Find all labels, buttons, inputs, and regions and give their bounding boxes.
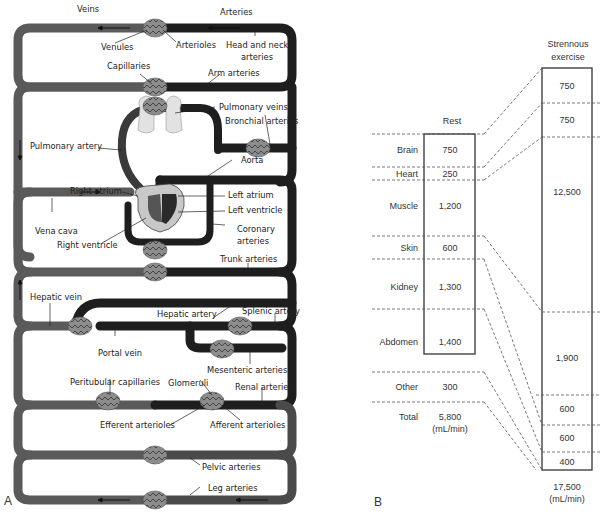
label-left-atrium: Left atrium	[228, 190, 274, 200]
circulation-figure: Veins Arteries Venules Arterioles Head a…	[0, 0, 600, 516]
exercise-value-heart: 750	[559, 115, 574, 125]
panel-b-letter: B	[374, 495, 382, 509]
label-venules: Venules	[101, 42, 133, 52]
veins-header: Veins	[77, 4, 99, 14]
exercise-value-muscle: 12,500	[553, 187, 581, 197]
label-aorta: Aorta	[241, 155, 263, 165]
rest-value-kidney: 1,300	[439, 282, 462, 292]
label-portal-vein: Portal vein	[98, 348, 142, 358]
exercise-column-title: Strennous	[547, 39, 589, 49]
rest-value-skin: 600	[442, 243, 457, 253]
category-muscle: Muscle	[389, 201, 418, 211]
label-vena-cava: Vena cava	[35, 226, 78, 236]
category-skin: Skin	[400, 243, 418, 253]
label-afferent-arterioles: Afferent arterioles	[210, 420, 285, 430]
exercise-value-skin: 1,900	[556, 353, 579, 363]
category-heart: Heart	[396, 169, 419, 179]
label-mesenteric-arteries: Mesenteric arteries	[207, 365, 287, 375]
exercise-unit: (mL/min)	[549, 494, 585, 504]
blood-flow-distribution-chart: Rest Strennous exercise	[372, 39, 600, 509]
capillary-beds	[68, 19, 270, 509]
label-peritubular-capillaries: Peritubular capillaries	[70, 377, 160, 387]
label-pulmonary-artery: Pulmonary artery	[30, 141, 102, 151]
panel-a-letter: A	[4, 494, 12, 508]
label-efferent-arterioles: Efferent arterioles	[100, 420, 175, 430]
label-left-ventricle: Left ventricle	[228, 205, 282, 215]
rest-total: 5,800	[439, 412, 462, 422]
arteries-header: Arteries	[220, 7, 253, 17]
exercise-value-abdomen: 600	[559, 433, 574, 443]
rest-value-muscle: 1,200	[439, 201, 462, 211]
category-kidney: Kidney	[390, 282, 418, 292]
exercise-value-other: 400	[559, 457, 574, 467]
label-arterioles: Arterioles	[176, 40, 216, 50]
label-hepatic-artery: Hepatic artery	[157, 309, 217, 319]
label-capillaries: Capillaries	[107, 61, 150, 71]
label-hepatic-vein: Hepatic vein	[30, 292, 82, 302]
label-coronary-arteries-2: arteries	[237, 236, 269, 246]
total-label: Total	[399, 412, 418, 422]
exercise-value-brain: 750	[559, 81, 574, 91]
label-trunk-arteries: Trunk arteries	[219, 254, 277, 264]
label-pelvic-arteries: Pelvic arteries	[202, 462, 261, 472]
label-right-atrium: Right atrium	[70, 186, 122, 196]
label-head-neck-arteries-2: arteries	[241, 52, 273, 62]
exercise-column-title-2: exercise	[551, 52, 585, 62]
label-bronchial-arteries: Bronchial arteries	[225, 116, 298, 126]
category-other: Other	[395, 382, 418, 392]
exercise-value-kidney: 600	[559, 404, 574, 414]
heart-shape	[135, 184, 184, 232]
label-right-ventricle: Right ventricle	[57, 240, 118, 250]
category-abdomen: Abdomen	[379, 337, 418, 347]
label-arm-arteries: Arm arteries	[208, 68, 260, 78]
label-splenic-artery: Splenic artery	[242, 306, 300, 316]
label-head-neck-arteries: Head and neck	[226, 40, 289, 50]
label-coronary-arteries: Coronary	[237, 224, 275, 234]
category-brain: Brain	[397, 145, 418, 155]
rest-value-brain: 750	[442, 145, 457, 155]
exercise-total: 17,500	[553, 482, 581, 492]
label-renal-arteries: Renal arteries	[235, 382, 293, 392]
label-pulmonary-veins: Pulmonary veins	[219, 102, 288, 112]
rest-value-heart: 250	[442, 169, 457, 179]
rest-value-abdomen: 1,400	[439, 337, 462, 347]
rest-value-other: 300	[442, 382, 457, 392]
systemic-circuit-diagram: Veins Arteries Venules Arterioles Head a…	[4, 4, 300, 509]
rest-unit: (mL/min)	[432, 424, 468, 434]
label-glomeruli: Glomeruli	[168, 378, 208, 388]
rest-column-title: Rest	[443, 116, 462, 126]
label-leg-arteries: Leg arteries	[208, 483, 257, 493]
